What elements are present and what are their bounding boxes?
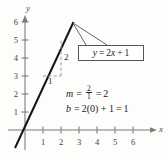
slope-symbol: m bbox=[66, 88, 74, 99]
x-tick-label-3: 3 bbox=[74, 137, 84, 147]
slope-denominator: 1 bbox=[86, 92, 92, 101]
intercept-equals-2: = bbox=[114, 103, 124, 114]
callout-leader-left bbox=[73, 23, 86, 45]
y-tick-label-2: 2 bbox=[8, 89, 18, 99]
callout-constant: 1 bbox=[125, 48, 130, 58]
slope-value: 2 bbox=[103, 88, 108, 99]
x-axis-arrowhead bbox=[150, 127, 157, 133]
x-tick-label-6: 6 bbox=[128, 137, 138, 147]
y-tick-label-5: 5 bbox=[8, 35, 18, 45]
y-tick-label-6: 6 bbox=[8, 17, 18, 27]
slope-numerator: 2 bbox=[86, 85, 92, 93]
callout-equals: = bbox=[97, 48, 106, 58]
x-tick-label-4: 4 bbox=[92, 137, 102, 147]
slope-fraction: 2 1 bbox=[86, 85, 92, 101]
equation-callout-box: y=2x+1 bbox=[78, 45, 144, 61]
x-axis-label: x bbox=[159, 124, 163, 134]
x-tick-label-1: 1 bbox=[38, 137, 48, 147]
y-tick-label-1: 1 bbox=[8, 107, 18, 117]
slope-calculation: m = 2 1 = 2 bbox=[66, 85, 108, 101]
intercept-expression: 2(0) + 1 bbox=[82, 103, 114, 114]
callout-plus: + bbox=[115, 48, 124, 58]
function-line bbox=[15, 22, 74, 148]
y-tick-label-3: 3 bbox=[8, 71, 18, 81]
equation-callout-text: y=2x+1 bbox=[93, 48, 130, 58]
graph-canvas bbox=[0, 0, 168, 159]
y-axis-arrowhead bbox=[22, 15, 28, 22]
y-axis-label: y bbox=[26, 3, 30, 13]
run-label: 1 bbox=[48, 76, 53, 86]
rise-label: 2 bbox=[64, 52, 69, 62]
intercept-equals-1: = bbox=[72, 103, 82, 114]
x-tick-label-5: 5 bbox=[110, 137, 120, 147]
slope-equals-2: = bbox=[94, 88, 104, 99]
intercept-calculation: b = 2(0) + 1 = 1 bbox=[66, 103, 129, 114]
linear-function-graph-figure: y x 1 2 3 4 5 6 1 2 3 4 5 6 2 1 y=2x+1 m… bbox=[0, 0, 168, 159]
intercept-value: 1 bbox=[124, 103, 129, 114]
x-tick-label-2: 2 bbox=[56, 137, 66, 147]
slope-equals-1: = bbox=[74, 88, 84, 99]
y-tick-label-4: 4 bbox=[8, 53, 18, 63]
callout-leader-right bbox=[73, 23, 107, 45]
